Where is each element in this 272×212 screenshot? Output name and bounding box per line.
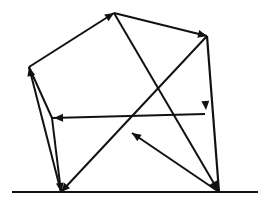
- edge-bottom-right-to-center: [132, 133, 219, 192]
- edge-apex-to-top-right: [114, 13, 207, 36]
- arrowhead-bottom-right-to-center: [132, 133, 142, 141]
- edge-bottom-left-to-left: [29, 67, 61, 192]
- figure-container: [0, 0, 272, 212]
- edge-layer: [29, 13, 219, 192]
- edge-mid-left-to-bottom-left: [52, 118, 61, 192]
- edge-top-right-to-bottom-right: [207, 36, 219, 192]
- arrowhead-right-mid-to-mid-left: [54, 114, 63, 122]
- arrowhead-top-right-to-bottom-right: [201, 101, 209, 110]
- arrowhead-layer: [27, 13, 219, 192]
- directed-graph-diagram: [0, 0, 272, 212]
- edge-right-mid-to-mid-left: [52, 114, 205, 118]
- edge-left-to-apex: [29, 13, 114, 67]
